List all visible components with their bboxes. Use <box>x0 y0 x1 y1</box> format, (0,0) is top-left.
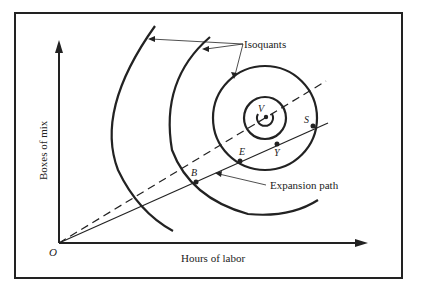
point-y-label: Y <box>274 147 281 158</box>
point-s-label: S <box>304 114 309 125</box>
point-s <box>311 124 316 129</box>
diagram-canvas: Isoquants Expansion path Hours of labor … <box>0 0 424 306</box>
y-axis-arrow-icon <box>55 40 63 53</box>
isoquant-leader-2 <box>206 44 243 49</box>
point-v-label: V <box>258 103 266 114</box>
point-y <box>275 142 280 147</box>
arrowhead-icon <box>202 46 209 52</box>
isoquant-curve-1 <box>112 26 173 231</box>
figure-frame <box>15 13 402 278</box>
expansion-path-label: Expansion path <box>270 179 339 191</box>
y-axis-label: Boxes of mix <box>37 120 49 180</box>
point-e <box>238 159 243 164</box>
arrowhead-icon <box>148 36 155 42</box>
point-v <box>264 115 268 119</box>
isoquant-figure: Isoquants Expansion path Hours of labor … <box>0 0 424 306</box>
point-b <box>194 180 199 185</box>
origin-label: O <box>49 246 57 258</box>
dashed-ridge-line <box>59 81 326 243</box>
isoquant-leader-1 <box>151 39 243 44</box>
expansion-path-leader <box>219 174 266 185</box>
point-b-label: B <box>191 167 197 178</box>
point-e-label: E <box>238 146 245 157</box>
isoquants-label: Isoquants <box>244 38 286 50</box>
x-axis-arrow-icon <box>355 239 368 247</box>
x-axis-label: Hours of labor <box>181 252 245 264</box>
